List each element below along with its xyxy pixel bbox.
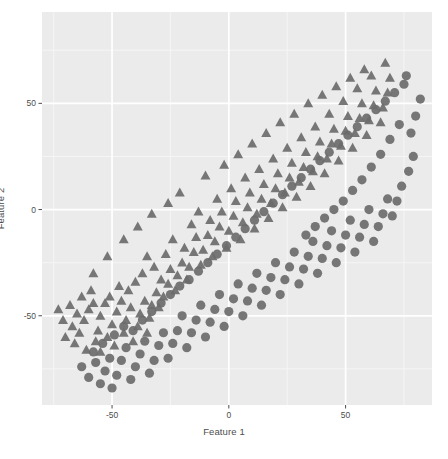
data-point-circle: [402, 71, 411, 80]
data-point-circle: [140, 337, 149, 346]
data-point-circle: [404, 167, 413, 176]
x-tick-label: 0: [226, 410, 231, 420]
data-point-circle: [121, 343, 130, 352]
data-point-circle: [187, 328, 196, 337]
data-point-circle: [276, 290, 285, 299]
data-point-circle: [164, 354, 173, 363]
y-axis-title: Feature 2: [0, 109, 6, 309]
data-point-circle: [194, 267, 203, 276]
data-point-circle: [311, 222, 320, 231]
data-point-circle: [100, 366, 109, 375]
data-point-circle: [159, 328, 168, 337]
data-point-circle: [290, 247, 299, 256]
data-point-circle: [395, 120, 404, 129]
data-point-circle: [185, 275, 194, 284]
data-point-circle: [392, 196, 401, 205]
data-point-circle: [119, 322, 128, 331]
data-point-circle: [117, 356, 126, 365]
y-tick-label: 50: [6, 98, 36, 108]
data-point-circle: [341, 230, 350, 239]
data-point-circle: [334, 139, 343, 148]
data-point-circle: [84, 373, 93, 382]
data-point-circle: [332, 258, 341, 267]
data-point-circle: [364, 205, 373, 214]
data-point-circle: [224, 307, 233, 316]
data-point-circle: [234, 279, 243, 288]
data-point-circle: [376, 150, 385, 159]
data-point-circle: [385, 135, 394, 144]
data-point-circle: [203, 258, 212, 267]
x-tick-label: 50: [341, 410, 350, 420]
data-point-circle: [369, 237, 378, 246]
data-point-circle: [397, 182, 406, 191]
data-point-circle: [229, 294, 238, 303]
data-point-circle: [147, 307, 156, 316]
data-point-circle: [96, 379, 105, 388]
data-point-circle: [126, 375, 135, 384]
data-point-circle: [339, 196, 348, 205]
data-point-circle: [388, 211, 397, 220]
data-point-circle: [297, 173, 306, 182]
data-point-circle: [409, 152, 418, 161]
data-point-circle: [157, 298, 166, 307]
data-point-circle: [343, 131, 352, 140]
data-point-circle: [257, 301, 266, 310]
data-point-circle: [150, 356, 159, 365]
data-point-circle: [287, 182, 296, 191]
data-point-circle: [238, 311, 247, 320]
data-point-circle: [304, 252, 313, 261]
data-point-circle: [322, 241, 331, 250]
data-point-circle: [138, 315, 147, 324]
data-point-circle: [192, 315, 201, 324]
data-point-circle: [308, 237, 317, 246]
x-tick-label: -50: [106, 410, 118, 420]
data-point-circle: [280, 275, 289, 284]
data-point-circle: [241, 224, 250, 233]
data-point-circle: [222, 241, 231, 250]
data-point-circle: [210, 305, 219, 314]
data-point-circle: [215, 290, 224, 299]
data-point-circle: [353, 122, 362, 131]
data-point-circle: [383, 194, 392, 203]
data-point-circle: [105, 354, 114, 363]
data-point-circle: [154, 341, 163, 350]
data-point-circle: [381, 97, 390, 106]
data-point-circle: [350, 247, 359, 256]
data-point-circle: [320, 213, 329, 222]
data-point-circle: [269, 199, 278, 208]
data-point-circle: [271, 258, 280, 267]
data-point-circle: [374, 222, 383, 231]
data-point-circle: [182, 343, 191, 352]
data-point-circle: [348, 186, 357, 195]
data-point-circle: [325, 148, 334, 157]
data-point-circle: [329, 205, 338, 214]
data-point-circle: [107, 383, 116, 392]
data-point-circle: [175, 281, 184, 290]
data-point-circle: [231, 233, 240, 242]
y-tick-label: -50: [6, 311, 36, 321]
data-point-circle: [299, 264, 308, 273]
data-point-circle: [390, 88, 399, 97]
data-point-circle: [243, 296, 252, 305]
data-point-circle: [201, 332, 210, 341]
data-point-circle: [367, 162, 376, 171]
data-point-circle: [327, 226, 336, 235]
data-point-circle: [294, 279, 303, 288]
data-point-circle: [362, 114, 371, 123]
data-point-circle: [346, 216, 355, 225]
data-point-circle: [166, 290, 175, 299]
data-point-circle: [89, 347, 98, 356]
data-point-circle: [196, 301, 205, 310]
data-point-circle: [91, 358, 100, 367]
data-point-circle: [278, 190, 287, 199]
data-point-circle: [357, 175, 366, 184]
data-point-circle: [336, 243, 345, 252]
data-point-circle: [128, 326, 137, 335]
data-point-circle: [262, 286, 271, 295]
data-point-circle: [378, 209, 387, 218]
x-axis-title: Feature 1: [0, 426, 448, 437]
data-point-circle: [313, 269, 322, 278]
data-point-circle: [318, 254, 327, 263]
data-point-circle: [306, 165, 315, 174]
data-point-circle: [213, 250, 222, 259]
